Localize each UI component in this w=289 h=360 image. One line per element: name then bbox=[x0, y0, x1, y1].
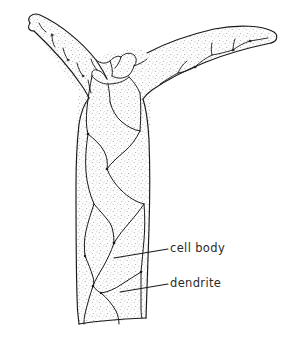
figure-root: cell body dendrite bbox=[0, 0, 289, 360]
neuron-body-group bbox=[0, 0, 289, 360]
label-cell-body: cell body bbox=[170, 243, 225, 255]
neuron-diagram bbox=[0, 0, 289, 360]
stipple-fill bbox=[0, 0, 289, 360]
label-dendrite: dendrite bbox=[170, 278, 221, 290]
